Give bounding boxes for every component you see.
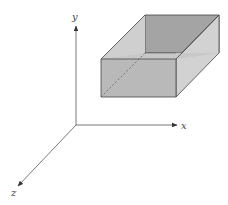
x-axis-label: x	[181, 120, 187, 131]
z-axis	[18, 125, 76, 186]
box-front-face	[101, 59, 176, 97]
coordinate-diagram: y x z	[0, 0, 228, 205]
y-axis-label: y	[71, 11, 78, 22]
rectangular-box	[101, 15, 219, 97]
z-axis-label: z	[10, 187, 17, 198]
